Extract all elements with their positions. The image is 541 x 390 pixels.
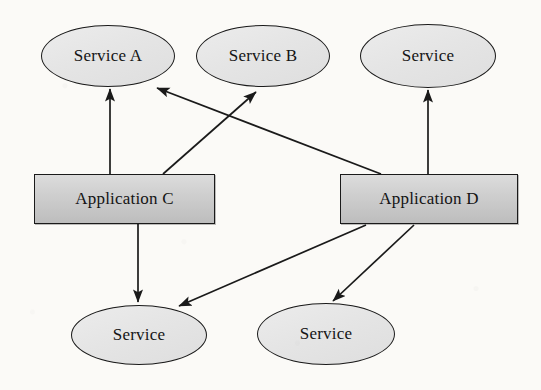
node-application-c-label: Application C (75, 189, 173, 209)
node-service-bottom-1-label: Service (113, 325, 165, 345)
node-service-a-label: Service A (74, 46, 142, 66)
node-application-c[interactable]: Application C (34, 174, 215, 224)
node-service-top-3[interactable]: Service (360, 24, 496, 88)
edge-appd-to-servicebottom2 (333, 225, 414, 301)
edge-appd-to-servicea (157, 88, 381, 174)
node-service-b[interactable]: Service B (196, 25, 330, 87)
node-service-b-label: Service B (229, 46, 297, 66)
node-service-top-3-label: Service (402, 46, 454, 66)
edge-appc-to-serviceb (163, 92, 256, 174)
node-application-d-label: Application D (379, 189, 478, 209)
node-service-bottom-2[interactable]: Service (257, 303, 395, 365)
node-service-bottom-2-label: Service (300, 324, 352, 344)
node-application-d[interactable]: Application D (340, 174, 518, 224)
node-service-a[interactable]: Service A (41, 25, 175, 87)
node-service-bottom-1[interactable]: Service (71, 305, 207, 365)
edge-appd-to-servicebottom1 (179, 225, 366, 306)
diagram-canvas: Service A Service B Service Application … (0, 0, 541, 390)
